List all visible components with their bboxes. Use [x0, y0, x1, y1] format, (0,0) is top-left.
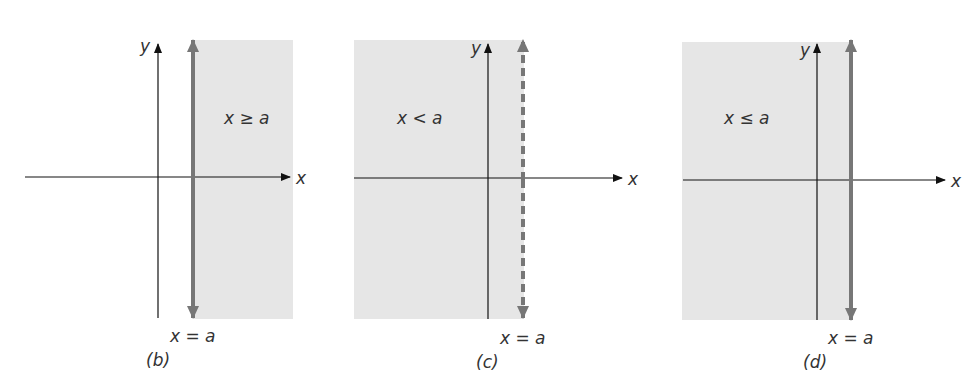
shaded-region — [354, 40, 524, 319]
boundary-label: x = a — [499, 328, 546, 348]
y-axis-label: y — [139, 36, 151, 56]
panel-d: x y x ≤ a x = a (d) — [682, 40, 962, 372]
x-axis-label: x — [627, 169, 639, 189]
y-axis-label: y — [799, 40, 811, 60]
x-axis-label: x — [295, 168, 307, 188]
panel-caption: (d) — [803, 352, 827, 372]
y-axis-label: y — [470, 38, 482, 58]
panel-c: x y x < a x = a (c) — [354, 38, 639, 372]
panel-caption: (b) — [146, 350, 170, 370]
panel-caption: (c) — [476, 352, 499, 372]
panel-b: x y x ≥ a x = a (b) — [25, 36, 307, 370]
boundary-label: x = a — [827, 328, 874, 348]
shaded-region — [193, 40, 293, 319]
x-axis-label: x — [950, 171, 962, 191]
shaded-region — [682, 42, 852, 320]
region-label: x < a — [396, 108, 443, 128]
region-label: x ≤ a — [723, 108, 770, 128]
region-label: x ≥ a — [223, 108, 270, 128]
boundary-label: x = a — [169, 326, 216, 346]
inequality-diagrams: x y x ≥ a x = a (b) x y x < a x = a (c) … — [0, 0, 965, 383]
